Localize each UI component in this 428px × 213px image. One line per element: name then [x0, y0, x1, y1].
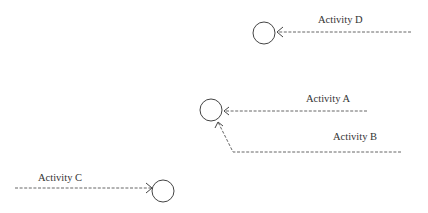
activity-c-label: Activity C	[38, 172, 82, 183]
event-node-bottom	[152, 180, 174, 202]
activity-a-label: Activity A	[306, 93, 350, 104]
event-node-middle	[200, 99, 222, 121]
activity-b-arrow: Activity B	[215, 122, 401, 152]
activity-a-arrow: Activity A	[224, 93, 367, 115]
diagram-canvas: Activity D Activity A Activity B Activit…	[0, 0, 428, 213]
activity-c-arrow: Activity C	[15, 172, 152, 193]
event-node-top	[253, 22, 275, 44]
activity-network-diagram: Activity D Activity A Activity B Activit…	[0, 0, 428, 213]
activity-d-arrow: Activity D	[277, 14, 411, 37]
activity-b-label: Activity B	[333, 131, 377, 142]
activity-d-label: Activity D	[318, 14, 363, 25]
